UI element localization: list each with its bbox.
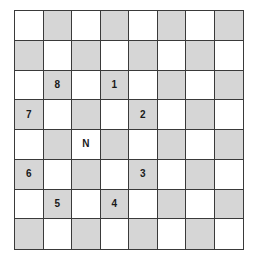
board-square	[158, 160, 187, 190]
board-square	[72, 41, 101, 71]
move-number-label: 4	[111, 199, 117, 209]
board-square	[72, 100, 101, 130]
move-number-label: 7	[26, 110, 32, 120]
board-square	[72, 11, 101, 41]
knight-label: N	[82, 139, 89, 149]
board-square	[215, 11, 244, 41]
board-square	[15, 130, 44, 160]
board-square	[44, 219, 73, 249]
chess-board: 8172N6354	[14, 10, 244, 250]
board-square	[215, 190, 244, 220]
move-target-square: 5	[44, 190, 73, 220]
move-target-square: 3	[129, 160, 158, 190]
board-square	[72, 219, 101, 249]
move-target-square: 2	[129, 100, 158, 130]
board-square	[101, 11, 130, 41]
board-square	[215, 41, 244, 71]
move-number-label: 3	[140, 169, 146, 179]
board-square	[186, 71, 215, 101]
board-square	[129, 190, 158, 220]
board-square	[158, 100, 187, 130]
knight-square: N	[72, 130, 101, 160]
board-square	[186, 190, 215, 220]
board-square	[215, 219, 244, 249]
board-square	[129, 130, 158, 160]
board-square	[15, 219, 44, 249]
board-square	[215, 100, 244, 130]
move-target-square: 8	[44, 71, 73, 101]
board-square	[158, 130, 187, 160]
board-square	[215, 130, 244, 160]
board-square	[186, 41, 215, 71]
board-square	[215, 160, 244, 190]
board-square	[186, 100, 215, 130]
board-square	[101, 130, 130, 160]
board-square	[15, 71, 44, 101]
board-square	[44, 100, 73, 130]
board-square	[44, 11, 73, 41]
board-square	[158, 11, 187, 41]
board-square	[44, 160, 73, 190]
board-square	[15, 11, 44, 41]
move-target-square: 1	[101, 71, 130, 101]
board-square	[72, 190, 101, 220]
board-square	[215, 71, 244, 101]
board-square	[15, 41, 44, 71]
move-number-label: 2	[140, 110, 146, 120]
move-number-label: 5	[54, 199, 60, 209]
board-square	[129, 71, 158, 101]
board-square	[101, 219, 130, 249]
board-square	[158, 71, 187, 101]
move-number-label: 1	[111, 80, 117, 90]
board-square	[15, 190, 44, 220]
board-square	[44, 41, 73, 71]
board-square	[44, 130, 73, 160]
board-square	[186, 160, 215, 190]
move-number-label: 8	[54, 80, 60, 90]
board-square	[129, 41, 158, 71]
board-square	[72, 160, 101, 190]
board-square	[186, 219, 215, 249]
board-square	[101, 100, 130, 130]
move-target-square: 7	[15, 100, 44, 130]
move-number-label: 6	[26, 169, 32, 179]
board-square	[129, 11, 158, 41]
board-square	[158, 190, 187, 220]
board-square	[158, 41, 187, 71]
move-target-square: 4	[101, 190, 130, 220]
board-square	[129, 219, 158, 249]
board-square	[72, 71, 101, 101]
board-square	[101, 160, 130, 190]
board-square	[186, 11, 215, 41]
board-square	[186, 130, 215, 160]
board-square	[158, 219, 187, 249]
move-target-square: 6	[15, 160, 44, 190]
board-square	[101, 41, 130, 71]
